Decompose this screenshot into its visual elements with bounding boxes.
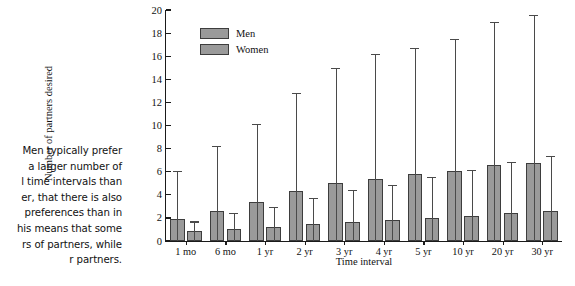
x-tick-mark <box>344 241 345 245</box>
x-tick-mark <box>542 241 543 245</box>
error-bar-cap <box>371 54 380 55</box>
error-bar-cap <box>269 207 278 208</box>
error-bar-women <box>551 157 552 241</box>
error-bar-men <box>534 16 535 241</box>
error-bar-women <box>511 163 512 241</box>
error-bar-women <box>194 223 195 241</box>
y-tick-label: 8 <box>157 143 162 154</box>
legend-swatch <box>200 28 229 39</box>
error-bar-cap <box>546 156 555 157</box>
error-bar-cap <box>507 162 516 163</box>
y-tick-mark <box>166 125 171 126</box>
x-tick-mark <box>503 241 504 245</box>
error-bar-cap <box>467 170 476 171</box>
legend-item-men: Men <box>200 27 268 40</box>
y-tick-mark <box>166 79 171 80</box>
error-bar-cap <box>331 68 340 69</box>
error-bar-men <box>415 49 416 241</box>
error-bar-cap <box>212 146 221 147</box>
error-bar-women <box>274 208 275 241</box>
error-bar-men <box>375 55 376 241</box>
legend-label: Men <box>236 28 255 39</box>
y-tick-label: 18 <box>152 28 163 39</box>
x-tick-mark <box>305 241 306 245</box>
legend-label: Women <box>236 44 268 55</box>
error-bar-cap <box>388 185 397 186</box>
legend-item-women: Women <box>200 43 268 56</box>
y-tick-label: 10 <box>152 120 163 131</box>
bar-chart-figure: Number of partners desired 0246810121416… <box>0 0 575 286</box>
error-bar-men <box>455 40 456 241</box>
error-bar-men <box>494 23 495 241</box>
x-tick-mark <box>225 241 226 245</box>
error-bar-women <box>313 199 314 241</box>
error-bar-cap <box>229 213 238 214</box>
y-tick-label: 12 <box>152 97 163 108</box>
error-bar-men <box>257 125 258 241</box>
error-bar-women <box>432 178 433 241</box>
x-tick-mark <box>186 241 187 245</box>
y-tick-label: 0 <box>157 236 162 247</box>
error-bar-cap <box>252 124 261 125</box>
error-bar-cap <box>427 177 436 178</box>
x-tick-mark <box>463 241 464 245</box>
error-bar-cap <box>309 198 318 199</box>
y-tick-mark <box>166 9 171 10</box>
error-bar-cap <box>348 190 357 191</box>
y-tick-mark <box>166 56 171 57</box>
error-bar-cap <box>529 15 538 16</box>
y-tick-label: 2 <box>157 212 162 223</box>
y-tick-label: 20 <box>152 5 163 16</box>
x-tick-mark <box>384 241 385 245</box>
y-tick-label: 6 <box>157 166 162 177</box>
y-tick-label: 16 <box>152 51 163 62</box>
error-bar-cap <box>173 171 182 172</box>
error-bar-cap <box>450 39 459 40</box>
y-tick-mark <box>166 148 171 149</box>
x-tick-mark <box>265 241 266 245</box>
chart-legend: MenWomen <box>200 27 268 59</box>
y-tick-mark <box>166 33 171 34</box>
x-axis-title: Time interval <box>166 256 562 267</box>
error-bar-cap <box>490 22 499 23</box>
error-bar-women <box>472 171 473 241</box>
error-bar-women <box>353 191 354 241</box>
legend-swatch <box>200 44 229 55</box>
y-tick-label: 4 <box>157 189 162 200</box>
y-tick-mark <box>166 102 171 103</box>
error-bar-men <box>177 172 178 241</box>
error-bar-cap <box>292 93 301 94</box>
y-tick-mark <box>166 194 171 195</box>
error-bar-cap <box>190 221 199 222</box>
y-tick-mark <box>166 171 171 172</box>
error-bar-men <box>336 69 337 241</box>
error-bar-women <box>234 214 235 241</box>
error-bar-women <box>392 186 393 241</box>
error-bar-men <box>217 147 218 241</box>
x-tick-mark <box>423 241 424 245</box>
error-bar-cap <box>410 48 419 49</box>
y-tick-label: 14 <box>152 74 163 85</box>
error-bar-men <box>296 94 297 241</box>
y-axis-title: Number of partners desired <box>43 29 54 219</box>
